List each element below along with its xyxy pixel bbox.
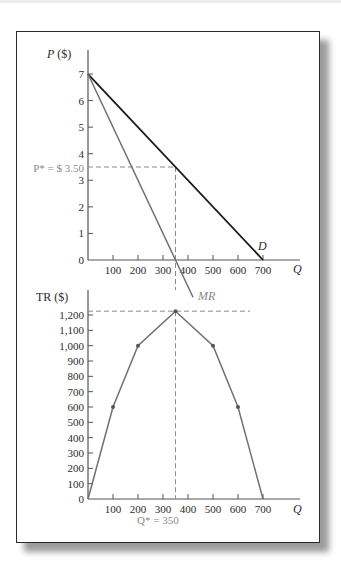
x-tick-label: 300: [155, 264, 172, 276]
x-tick-label: 100: [105, 503, 122, 515]
y-tick-label: 2: [79, 201, 85, 213]
x-tick-label: 100: [105, 264, 122, 276]
qstar-label: Q* = 350: [137, 514, 179, 526]
tr-data-point: [211, 344, 215, 348]
x-tick-label: 700: [255, 503, 272, 515]
y-tick-label: 4: [79, 148, 85, 160]
price-chart: 01234567100200300400500600700: [79, 50, 301, 297]
y-tick-label: 700: [68, 386, 85, 398]
pstar-label: P* = $ 3.50: [33, 162, 84, 174]
y-tick-label: 1: [79, 227, 85, 239]
y-tick-label: 7: [79, 68, 85, 80]
total-revenue-chart: 01002003004005006007008009001,0001,1001,…: [59, 290, 300, 515]
x-tick-label: 500: [205, 264, 222, 276]
y-tick-label: 600: [68, 401, 85, 413]
y-tick-label: 100: [68, 478, 85, 490]
x-tick-label: 700: [255, 264, 272, 276]
y-tick-label: 1,100: [59, 324, 84, 336]
y-tick-label: 3: [79, 174, 85, 186]
top-quantity-axis-title: Q: [293, 262, 302, 276]
y-tick-label: 300: [68, 447, 85, 459]
y-tick-label: 200: [68, 462, 85, 474]
x-tick-label: 600: [230, 503, 247, 515]
price-axis-title: P ($): [46, 47, 71, 61]
y-tick-label: 0: [79, 493, 85, 505]
demand-label: D: [257, 239, 267, 253]
x-tick-label: 400: [180, 503, 197, 515]
tr-data-point: [236, 405, 240, 409]
y-tick-label: 1,000: [59, 340, 84, 352]
tr-data-point: [111, 405, 115, 409]
chart-canvas: 01234567100200300400500600700 0100200300…: [0, 0, 341, 568]
x-tick-label: 500: [205, 503, 222, 515]
x-tick-label: 200: [130, 264, 147, 276]
y-tick-label: 400: [68, 432, 85, 444]
x-tick-label: 600: [230, 264, 247, 276]
y-tick-label: 0: [79, 254, 85, 266]
tr-data-point: [174, 309, 178, 313]
y-tick-label: 6: [79, 95, 85, 107]
tr-data-point: [136, 344, 140, 348]
y-tick-label: 800: [68, 370, 85, 382]
y-tick-label: 1,200: [59, 309, 84, 321]
mr-label: MR: [197, 289, 216, 303]
y-tick-label: 500: [68, 416, 85, 428]
y-tick-label: 900: [68, 355, 85, 367]
bottom-quantity-axis-title: Q: [293, 502, 302, 516]
y-tick-label: 5: [79, 121, 85, 133]
tr-axis-title: TR ($): [36, 290, 68, 304]
